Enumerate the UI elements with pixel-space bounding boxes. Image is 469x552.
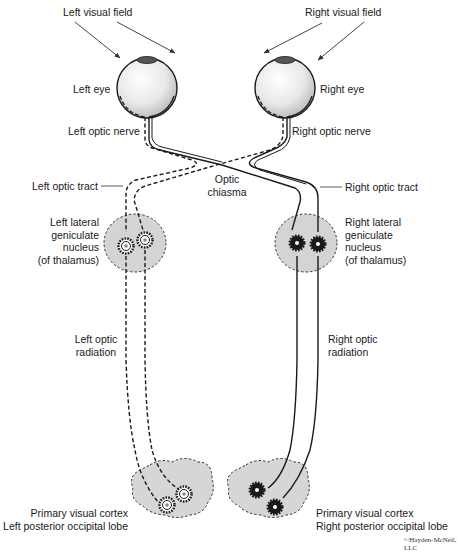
right-cortex-label: Primary visual cortex Right posterior oc…: [316, 507, 448, 532]
optic-chiasma-label: Optic chiasma: [205, 173, 249, 198]
right-eye-icon: [255, 57, 315, 119]
right-visual-field-label: Right visual field: [305, 6, 381, 19]
optic-chiasma-line2: chiasma: [205, 186, 249, 199]
visual-field-arrows: [75, 22, 364, 60]
left-eye-label: Left eye: [73, 83, 110, 96]
left-optic-nerve-label: Left optic nerve: [68, 125, 140, 138]
right-lgn-line3: nucleus: [345, 241, 406, 254]
left-cortex-line2: Left posterior occipital lobe: [0, 520, 128, 533]
left-lgn-neuron-1-icon: [119, 239, 134, 254]
right-cortex-line2: Right posterior occipital lobe: [316, 520, 448, 533]
left-lgn-neuron-2-icon: [138, 233, 153, 248]
right-cortex-line1: Primary visual cortex: [316, 507, 448, 520]
right-lgn-line1: Right lateral: [345, 216, 406, 229]
right-optic-radiation-line1: Right optic: [328, 333, 378, 346]
left-optic-radiation-line2: radiation: [70, 346, 122, 359]
left-optic-tract-label: Left optic tract: [32, 180, 98, 193]
right-lgn-region: [275, 214, 337, 272]
right-optic-radiation-line2: radiation: [328, 346, 378, 359]
right-lgn-line2: geniculate: [345, 229, 406, 242]
left-lgn-line4: (of thalamus): [20, 254, 99, 267]
right-lgn-line4: (of thalamus): [345, 254, 406, 267]
right-optic-nerve-label: Right optic nerve: [292, 125, 371, 138]
optic-chiasma-line1: Optic: [205, 173, 249, 186]
left-lgn-line3: nucleus: [20, 241, 99, 254]
right-lgn-label: Right lateral geniculate nucleus (of tha…: [345, 216, 406, 266]
left-cortex-line1: Primary visual cortex: [0, 507, 128, 520]
left-lgn-label: Left lateral geniculate nucleus (of thal…: [20, 216, 99, 266]
right-optic-radiation-label: Right optic radiation: [328, 333, 378, 358]
left-lgn-line1: Left lateral: [20, 216, 99, 229]
left-lgn-line2: geniculate: [20, 229, 99, 242]
copyright-notice: ©Hayden-McNeil, LLC: [404, 536, 469, 552]
right-lgn-neuron-1-icon: [290, 236, 304, 250]
left-cortex-label: Primary visual cortex Left posterior occ…: [0, 507, 128, 532]
right-eye-label: Right eye: [320, 83, 364, 96]
left-optic-radiation-label: Left optic radiation: [70, 333, 122, 358]
right-lgn-neuron-2-icon: [311, 237, 325, 251]
right-cortex-neuron-1-icon: [250, 483, 264, 497]
left-cortex-neuron-1-icon: [160, 498, 175, 513]
right-cortex-neuron-2-icon: [268, 500, 282, 514]
left-lgn-region: [104, 214, 166, 272]
left-eye-icon: [117, 57, 177, 119]
left-optic-radiation-line1: Left optic: [70, 333, 122, 346]
left-visual-field-label: Left visual field: [63, 6, 132, 19]
left-cortex-neuron-2-icon: [177, 487, 192, 502]
right-optic-tract-label: Right optic tract: [345, 181, 418, 194]
